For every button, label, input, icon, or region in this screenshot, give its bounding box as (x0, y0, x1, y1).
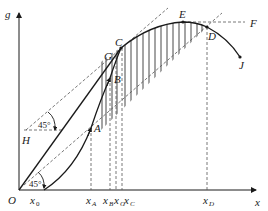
point-a-label: A (93, 122, 101, 134)
x-tick-xa: x A (85, 194, 97, 208)
point-e-label: E (178, 8, 186, 20)
x-tick-xd: x D (202, 194, 214, 208)
x-tick-xb: x B (102, 194, 114, 208)
lower-45-line (24, 13, 222, 185)
curve-points (119, 20, 241, 58)
x-tick-x0: x 0 (29, 194, 40, 208)
svg-text:x: x (202, 194, 208, 206)
point-f-label: F (249, 17, 257, 29)
upper-angle-label: 45° (38, 120, 51, 130)
svg-text:C: C (130, 200, 135, 208)
main-curve (44, 22, 240, 190)
point-h-label: H (21, 134, 31, 146)
svg-text:x: x (85, 194, 91, 206)
svg-text:x: x (29, 194, 35, 206)
point-b-label: B (114, 73, 121, 85)
origin-label: O (8, 194, 16, 206)
point-j-label: J (239, 59, 245, 71)
point-g-label: G (104, 50, 112, 62)
y-axis-label: g (5, 8, 11, 20)
arrow-to-b-icon (107, 78, 110, 86)
point-c-label: C (115, 36, 123, 48)
svg-text:x: x (102, 194, 108, 206)
svg-text:0: 0 (36, 200, 40, 208)
x-tick-xc: x C (123, 194, 135, 208)
svg-text:x: x (123, 194, 129, 206)
svg-text:D: D (208, 200, 214, 208)
lower-angle-label: 45° (29, 179, 42, 189)
svg-text:A: A (91, 200, 97, 208)
point-d-label: D (207, 30, 216, 42)
svg-text:x: x (113, 194, 119, 206)
diagram-canvas: g x O A B C G E D F J H 45° 45° x 0 x A … (0, 0, 268, 211)
x-axis-label: x (254, 196, 260, 208)
